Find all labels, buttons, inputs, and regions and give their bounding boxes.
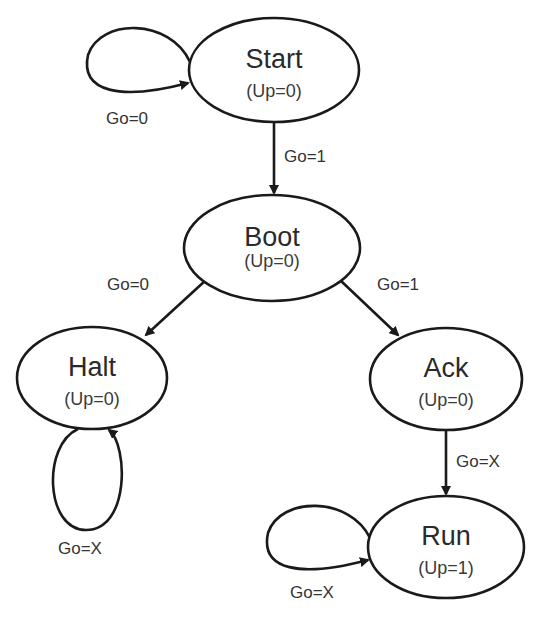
state-halt: Halt (Up=0) — [17, 327, 167, 429]
state-name: Halt — [68, 352, 117, 382]
transition-halt-self: Go=X — [53, 429, 122, 558]
state-output: (Up=0) — [246, 81, 302, 101]
transition-start-self: Go=0 — [87, 28, 190, 128]
transition-label: Go=X — [290, 583, 334, 602]
transition-label: Go=1 — [284, 147, 326, 166]
transition-label: Go=1 — [377, 275, 419, 294]
state-output: (Up=0) — [244, 251, 300, 271]
state-name: Run — [421, 521, 471, 551]
state-ack: Ack (Up=0) — [370, 328, 522, 430]
state-start: Start (Up=0) — [189, 18, 359, 122]
state-name: Start — [245, 44, 303, 74]
state-boot: Boot (Up=0) — [184, 195, 360, 301]
transition-label: Go=X — [456, 452, 500, 471]
state-name: Ack — [423, 353, 469, 383]
state-run: Run (Up=1) — [368, 496, 524, 598]
state-output: (Up=0) — [64, 389, 120, 409]
state-name: Boot — [244, 222, 300, 252]
transition-label: Go=X — [58, 539, 102, 558]
state-output: (Up=0) — [418, 390, 474, 410]
transition-label: Go=0 — [107, 275, 149, 294]
transition-boot-halt: Go=0 — [107, 275, 206, 335]
state-output: (Up=1) — [418, 558, 474, 578]
transition-label: Go=0 — [106, 109, 148, 128]
transition-ack-run: Go=X — [446, 430, 500, 494]
transition-boot-ack: Go=1 — [340, 275, 419, 335]
transition-start-boot: Go=1 — [274, 122, 326, 193]
transition-run-self: Go=X — [267, 506, 370, 602]
state-diagram: Go=0 Go=1 Go=0 Go=1 Go=X Go=X Go=X Start… — [0, 0, 553, 625]
